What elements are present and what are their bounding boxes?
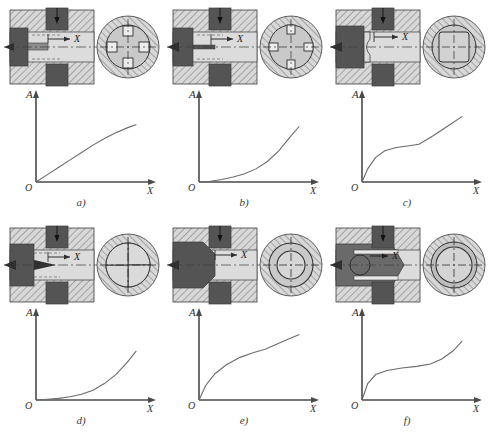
stroke-label-a: X (73, 33, 81, 44)
panel-e-figure: X (167, 224, 323, 306)
panel-d-graph: A O X (14, 304, 160, 416)
section-view-b: X (167, 8, 263, 86)
panel-b-graph: A O X (177, 86, 323, 198)
valve-diagram-a: X (4, 6, 160, 88)
panel-e: X A O X e) (163, 218, 325, 438)
panel-c-caption: c) (326, 196, 488, 208)
x-axis-label-d: X (146, 403, 154, 414)
stroke-label-f: X (391, 250, 399, 261)
chart-c: A O X (340, 86, 486, 198)
cross-section-view-a (97, 16, 159, 78)
x-axis-label-b: X (309, 185, 317, 196)
origin-label-b: O (188, 182, 195, 193)
cross-section-view-c (423, 16, 485, 78)
x-axis-label-a: X (146, 185, 154, 196)
panel-a: X A O X a) (0, 0, 162, 220)
curve-f (362, 341, 462, 400)
origin-label-a: O (25, 182, 32, 193)
y-axis-label-c: A (351, 88, 359, 100)
panel-f-figure: X (330, 224, 486, 306)
panel-f: X A O X f) (326, 218, 488, 438)
panel-b: X A O X b) (163, 0, 325, 220)
panel-a-graph: A O X (14, 86, 160, 198)
curve-e (199, 334, 299, 400)
section-view-f: X (330, 226, 426, 304)
chart-a: A O X (14, 86, 160, 198)
valve-diagram-b: X (167, 6, 323, 88)
panel-c: X A O X c) (326, 0, 488, 220)
stroke-label-c: X (401, 31, 409, 42)
origin-label-d: O (25, 400, 32, 411)
cross-section-view-b (260, 16, 322, 78)
panel-b-caption: b) (163, 196, 325, 208)
chart-f: A O X (340, 304, 486, 416)
panel-a-figure: X (4, 6, 160, 88)
panel-d: X A O X d) (0, 218, 162, 438)
panel-e-caption: e) (163, 414, 325, 426)
panel-e-graph: A O X (177, 304, 323, 416)
cross-section-view-f (423, 234, 485, 296)
section-view-a: X (4, 8, 100, 86)
panel-f-caption: f) (326, 414, 488, 426)
y-axis-label-f: A (351, 306, 359, 318)
chart-b: A O X (177, 86, 323, 198)
panel-f-graph: A O X (340, 304, 486, 416)
origin-label-c: O (351, 182, 358, 193)
valve-diagram-f: X (330, 224, 486, 306)
valve-diagram-e: X (167, 224, 323, 306)
cross-section-view-d (97, 234, 159, 296)
section-view-d: X (4, 226, 100, 304)
panel-c-figure: X (330, 6, 486, 88)
x-axis-label-e: X (309, 403, 317, 414)
curve-c (362, 116, 462, 182)
section-view-c: X (330, 8, 426, 86)
origin-label-f: O (351, 400, 358, 411)
x-axis-label-f: X (472, 403, 480, 414)
section-view-e: X (167, 226, 263, 304)
panel-c-graph: A O X (340, 86, 486, 198)
valve-diagram-d: X (4, 224, 160, 306)
valve-diagram-c: X (330, 6, 486, 88)
panel-a-caption: a) (0, 196, 162, 208)
stroke-label-d: X (73, 251, 81, 262)
chart-e: A O X (177, 304, 323, 416)
panel-b-figure: X (167, 6, 323, 88)
panel-d-figure: X (4, 224, 160, 306)
stroke-label-e: X (240, 249, 248, 260)
cross-section-view-e (260, 234, 322, 296)
y-axis-label-b: A (188, 88, 196, 100)
y-axis-label-e: A (188, 306, 196, 318)
panel-d-caption: d) (0, 414, 162, 426)
stroke-label-b: X (236, 33, 244, 44)
chart-d: A O X (14, 304, 160, 416)
curve-a (36, 125, 136, 182)
origin-label-e: O (188, 400, 195, 411)
y-axis-label-d: A (25, 306, 33, 318)
curve-b (199, 126, 299, 182)
y-axis-label-a: A (25, 88, 33, 100)
x-axis-label-c: X (472, 185, 480, 196)
curve-d (36, 351, 136, 400)
